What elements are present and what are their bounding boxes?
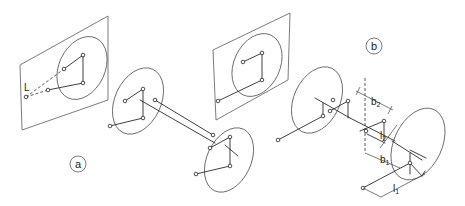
projection-plane-a bbox=[20, 16, 108, 130]
ellipse-wheel-a1 bbox=[102, 60, 173, 143]
panel-b: b b2 l2 b1 bbox=[213, 13, 456, 197]
diagram-canvas: L a bbox=[0, 0, 465, 206]
panel-a-label: a bbox=[75, 158, 82, 170]
ellipse-plane-a bbox=[47, 28, 117, 107]
ellipse-wheel-b2 bbox=[380, 99, 456, 188]
ellipse-wheel-b1 bbox=[281, 59, 352, 142]
ellipse-wheel-a2 bbox=[195, 120, 264, 200]
light-point-label: L bbox=[24, 82, 30, 93]
l1-label: l1 bbox=[393, 183, 399, 195]
panel-b-label: b bbox=[371, 40, 377, 52]
l2-label: l2 bbox=[380, 130, 386, 142]
b1-label: b1 bbox=[380, 154, 390, 166]
projection-plane-b bbox=[213, 13, 290, 120]
b2-label: b2 bbox=[371, 96, 381, 108]
ellipse-plane-b bbox=[222, 25, 292, 104]
